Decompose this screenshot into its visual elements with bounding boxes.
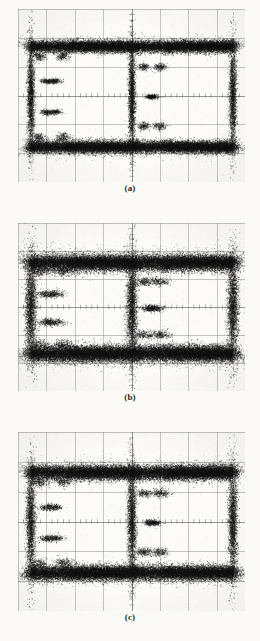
- oscilloscope-screen-b: [18, 223, 245, 391]
- oscilloscope-screen-a: [18, 9, 245, 182]
- eye-diagram-canvas-b: [18, 223, 245, 391]
- oscilloscope-screen-c: [18, 432, 245, 611]
- eye-diagram-canvas-c: [18, 432, 245, 611]
- panel-caption-c: (c): [0, 612, 260, 622]
- eye-diagram-canvas-a: [18, 9, 245, 182]
- panel-caption-b: (b): [0, 392, 260, 402]
- panel-caption-a: (a): [0, 183, 260, 193]
